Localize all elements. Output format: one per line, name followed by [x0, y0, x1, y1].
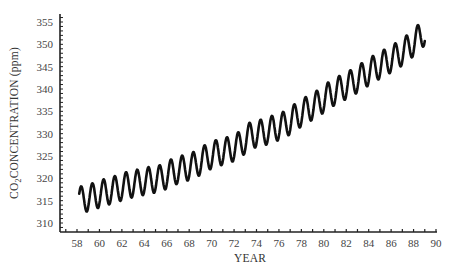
x-tick-label: 66 [161, 237, 173, 249]
x-tick-label: 70 [206, 237, 218, 249]
x-tick-label: 64 [139, 237, 151, 249]
x-tick-label: 62 [116, 237, 127, 249]
x-tick-label: 74 [251, 237, 263, 249]
x-tick-label: 76 [273, 237, 285, 249]
x-tick-label: 60 [94, 237, 106, 249]
x-tick-label: 82 [341, 237, 352, 249]
x-tick-label: 72 [229, 237, 240, 249]
y-tick-label: 325 [37, 150, 54, 162]
y-tick-label: 320 [37, 172, 54, 184]
y-tick-label: 310 [37, 217, 54, 229]
y-tick-label: 340 [37, 83, 54, 95]
y-axis-title: CO2CONCENTRATION (ppm) [8, 47, 23, 199]
y-tick-label: 355 [37, 16, 54, 28]
y-tick-label: 350 [37, 38, 54, 50]
co2-series-line [79, 25, 425, 211]
x-tick-label: 88 [408, 237, 420, 249]
y-tick-label: 330 [37, 128, 54, 140]
x-tick-label: 84 [363, 237, 375, 249]
y-tick-label: 315 [37, 195, 54, 207]
x-tick-label: 86 [386, 237, 398, 249]
x-tick-label: 58 [72, 237, 84, 249]
x-tick-label: 78 [296, 237, 308, 249]
x-tick-label: 80 [318, 237, 330, 249]
x-tick-label: 68 [184, 237, 196, 249]
x-tick-label: 90 [431, 237, 443, 249]
y-axis-ticks: 310315320325330335340345350355 [37, 16, 64, 229]
x-axis-title: YEAR [234, 252, 266, 264]
y-tick-label: 335 [37, 105, 54, 117]
co2-chart: 310315320325330335340345350355 586062646… [0, 0, 454, 269]
y-tick-label: 345 [37, 61, 54, 73]
